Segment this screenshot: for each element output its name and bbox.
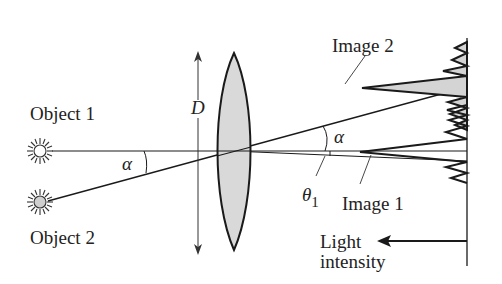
object2-label: Object 2	[30, 227, 95, 248]
intensity-label-line2: intensity	[320, 251, 386, 272]
intensity-label-line1: Light	[320, 231, 362, 252]
aperture-label: D	[190, 97, 205, 118]
ray-object2	[48, 87, 467, 201]
alpha-right-label: α	[334, 126, 345, 147]
lens-resolution-diagram: D Object 1 Object 2 α α θ1 Ima	[0, 0, 502, 284]
aperture-dimension-arrow	[194, 51, 202, 255]
theta-leader	[316, 156, 325, 176]
image2-label: Image 2	[332, 35, 394, 56]
alpha-right-arc	[323, 126, 327, 151]
image2-leader	[345, 56, 365, 84]
image1-label: Image 1	[342, 193, 404, 214]
image1-leader	[360, 155, 371, 184]
image1-intensity-profile	[360, 105, 467, 183]
alpha-left-label: α	[122, 153, 133, 174]
theta-label: θ1	[302, 184, 319, 210]
object1-label: Object 1	[30, 103, 95, 124]
object1-sun-icon	[27, 138, 53, 164]
alpha-left-arc	[144, 151, 147, 173]
object2-sun-icon	[27, 189, 53, 215]
